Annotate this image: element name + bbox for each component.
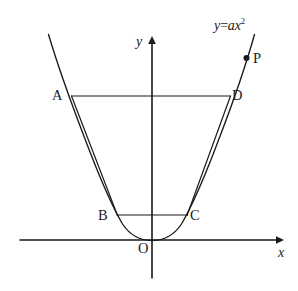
y-axis-arrowhead <box>148 36 156 44</box>
segment-CD <box>187 96 231 216</box>
point-B-label: B <box>98 208 108 223</box>
equation-exponent: 2 <box>241 16 245 26</box>
parabola-figure: y=ax2 y x O A D B C P <box>0 0 298 291</box>
equation-a: a <box>228 18 235 33</box>
point-C-label: C <box>190 208 200 223</box>
point-D-label: D <box>232 88 242 103</box>
x-axis-arrowhead <box>276 236 284 244</box>
point-A-label: A <box>52 88 62 103</box>
x-axis-label: x <box>278 246 284 260</box>
origin-label: O <box>138 241 148 256</box>
point-P-dot <box>244 55 250 61</box>
equation-equals: = <box>220 18 227 33</box>
point-P-label: P <box>253 51 261 66</box>
segment-AB <box>72 96 118 216</box>
parabola-equation-label: y=ax2 <box>214 19 245 33</box>
figure-canvas <box>0 0 298 291</box>
y-axis-label: y <box>136 35 142 49</box>
